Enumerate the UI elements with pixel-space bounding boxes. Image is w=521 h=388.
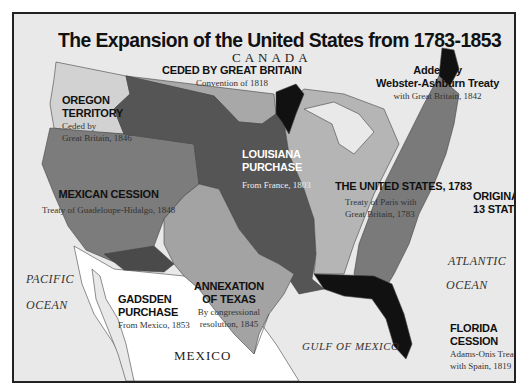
florida-detail-line2: with Spain, 1819 [450,360,516,372]
louisiana-purchase-label: LOUISIANA PURCHASE From France, 1803 [242,148,311,191]
gadsden-purchase-label: GADSDEN PURCHASE From Mexico, 1853 [118,293,190,331]
florida-cession-label: FLORIDA CESSION Adams-Onis Treaty with S… [450,322,516,372]
map-title: The Expansion of the United States from … [58,28,501,52]
oregon-territory-label: OREGON TERRITORY Ceded by Great Britain,… [62,94,132,144]
original-13-name-line2: 13 STATES [473,203,516,216]
original-13-states-label: ORIGINAL 13 STATES [473,190,516,216]
gulf-of-mexico-label: GULF OF MEXICO [302,340,399,352]
mexican-cession-label: MEXICAN CESSION Treaty of Guadeloupe-Hid… [42,188,175,216]
mexico-label: MEXICO [174,348,231,364]
mexican-cession-name: MEXICAN CESSION [42,188,175,201]
webster-ashburton-name-line2: Webster-Ashburn Treaty [376,77,499,90]
texas-detail-line2: resolution, 1845 [194,318,264,330]
annexation-of-texas-label: ANNEXATION OF TEXAS By congressional res… [194,280,264,330]
louisiana-detail: From France, 1803 [242,179,311,191]
florida-name-line1: FLORIDA [450,322,516,335]
gadsden-name-line1: GADSDEN [118,293,190,306]
oregon-detail-line1: Ceded by [62,120,132,132]
texas-name-line1: ANNEXATION [194,280,264,293]
florida-name-line2: CESSION [450,335,516,348]
ceded-by-great-britain-label: CEDED BY GREAT BRITAIN Convention of 181… [162,64,302,89]
mexican-cession-detail: Treaty of Guadeloupe-Hidalgo, 1848 [42,204,175,216]
texas-name-line2: OF TEXAS [194,293,264,306]
pacific-ocean-label-line1: PACIFIC [26,272,74,287]
webster-ashburton-detail: with Great Britain, 1842 [376,90,499,102]
oregon-detail-line2: Great Britain, 1846 [62,132,132,144]
texas-detail-line1: By congressional [194,306,264,318]
pacific-ocean-label-line2: OCEAN [26,298,68,313]
ceded-by-great-britain-name: CEDED BY GREAT BRITAIN [162,64,302,77]
florida-detail-line1: Adams-Onis Treaty [450,348,516,360]
us-1783-detail-line1: Treaty of Paris with [345,196,472,208]
atlantic-ocean-label-line1: ATLANTIC [448,254,506,269]
original-13-name-line1: ORIGINAL [473,190,516,203]
oregon-name-line1: OREGON [62,94,132,107]
louisiana-name-line1: LOUISIANA [242,148,311,161]
oregon-name-line2: TERRITORY [62,107,132,120]
webster-ashburton-label: Added by Webster-Ashburn Treaty with Gre… [376,64,499,102]
united-states-1783-label: THE UNITED STATES, 1783 Treaty of Paris … [335,180,472,220]
gadsden-name-line2: PURCHASE [118,306,190,319]
louisiana-name-line2: PURCHASE [242,161,311,174]
us-1783-name: THE UNITED STATES, 1783 [335,180,472,193]
gadsden-detail: From Mexico, 1853 [118,319,190,331]
map-frame: The Expansion of the United States from … [12,12,516,383]
webster-ashburton-name-line1: Added by [376,64,499,77]
us-1783-detail-line2: Great Britain, 1783 [345,208,472,220]
atlantic-ocean-label-line2: OCEAN [446,278,488,293]
ceded-by-great-britain-detail: Convention of 1818 [162,77,302,89]
